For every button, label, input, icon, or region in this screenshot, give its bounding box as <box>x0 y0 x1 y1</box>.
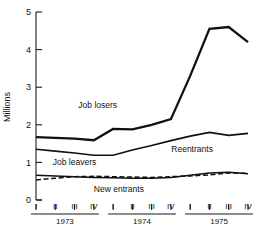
x-axis-quarter-label: III <box>148 202 155 211</box>
series-line-new-entrants <box>36 173 248 180</box>
x-axis-quarter-label: IV <box>244 202 252 211</box>
x-axis-quarter-label: III <box>71 202 78 211</box>
series-annotations: Job losersReentrantsJob leaversNew entra… <box>53 100 213 194</box>
x-axis-quarter-label: IV <box>167 202 175 211</box>
y-axis-tick-label: 3 <box>26 82 31 92</box>
series-label-job-losers: Job losers <box>78 100 117 110</box>
chart-container: 012345 Millions Job losersReentrantsJob … <box>0 0 256 235</box>
chart-axes <box>36 12 42 200</box>
series-line-reentrants <box>36 132 248 155</box>
series-line-job-losers <box>36 27 248 140</box>
y-axis-tick-label: 0 <box>26 195 31 205</box>
x-axis-quarter-label: II <box>53 202 57 211</box>
y-axis-title: Millions <box>2 92 12 123</box>
y-axis-tick-label: 4 <box>26 45 31 55</box>
series-label-new-entrants: New entrants <box>94 184 144 194</box>
y-axis-tick-label: 5 <box>26 7 31 17</box>
x-axis-quarter-label: I <box>189 202 191 211</box>
x-axis-quarter-label: I <box>112 202 114 211</box>
x-axis-quarter-label: I <box>35 202 37 211</box>
x-axis-quarter-label: II <box>207 202 211 211</box>
series-label-reentrants: Reentrants <box>171 144 213 154</box>
series-label-job-leavers: Job leavers <box>53 157 96 167</box>
x-axis-quarter-label: III <box>225 202 232 211</box>
line-chart: 012345 Millions Job losersReentrantsJob … <box>0 0 256 235</box>
y-axis-tick-labels: 012345 <box>26 7 31 205</box>
x-axis-labels: IIIIIIIVIIIIIIIVIIIIIIIV197319741975 <box>31 202 253 226</box>
y-axis-tick-label: 1 <box>26 158 31 168</box>
y-axis-tick-label: 2 <box>26 120 31 130</box>
x-axis-year-label: 1974 <box>133 217 151 226</box>
x-axis-year-label: 1975 <box>210 217 228 226</box>
x-axis-quarter-label: II <box>130 202 134 211</box>
x-axis-year-label: 1973 <box>56 217 74 226</box>
x-axis-quarter-label: IV <box>90 202 98 211</box>
